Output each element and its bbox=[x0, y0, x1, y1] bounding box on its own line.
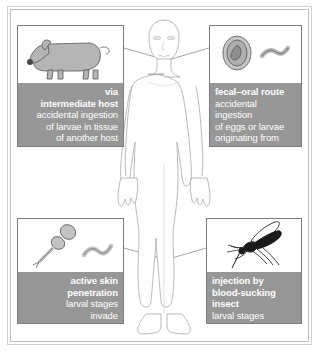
caption-title-line-1: fecal–oral route bbox=[215, 86, 296, 98]
pig-icon bbox=[18, 26, 123, 83]
mosquito-icon bbox=[207, 219, 301, 272]
caption-body-line-4: feces of infected bbox=[215, 144, 296, 148]
caption-body-line-3: through skin bbox=[23, 321, 118, 324]
diagram-canvas: via intermediate host accidental ingesti… bbox=[0, 0, 327, 362]
caption-via-intermediate-host: via intermediate host accidental ingesti… bbox=[18, 83, 123, 146]
mosquito-leg-2 bbox=[257, 249, 273, 265]
caption-body-line-2: of eggs or larvae bbox=[215, 121, 296, 133]
cercaria-illustration-panel bbox=[18, 219, 123, 272]
pig-illustration-panel bbox=[18, 26, 123, 83]
transmission-box-fecal-oral-route[interactable]: fecal–oral route accidental ingestion of… bbox=[209, 25, 302, 147]
caption-injection-by-blood-sucking-insect: injection by blood-sucking insect larval… bbox=[207, 272, 301, 323]
caption-title-line-2: penetration bbox=[23, 287, 118, 299]
caption-body-line-3: of another host bbox=[23, 132, 118, 144]
human-hand-right bbox=[190, 178, 210, 206]
human-foot-right bbox=[167, 314, 190, 334]
caption-title-line-1: active skin bbox=[23, 275, 118, 287]
pig-leg-front bbox=[47, 70, 53, 79]
caption-title-line-1: injection by bbox=[212, 275, 296, 287]
transmission-box-via-intermediate-host[interactable]: via intermediate host accidental ingesti… bbox=[17, 25, 124, 147]
transmission-box-active-skin-penetration[interactable]: active skin penetration larval stages in… bbox=[17, 218, 124, 324]
caption-title-line-1: via bbox=[23, 86, 118, 98]
caption-body-line-1: larval stages bbox=[23, 298, 118, 310]
cercaria-tail-outline bbox=[39, 248, 53, 262]
caption-body-line-2: of larvae in tissue bbox=[23, 121, 118, 133]
mosquito-antenna-b bbox=[227, 250, 238, 252]
human-eye-left bbox=[153, 36, 161, 40]
caption-fecal-oral-route: fecal–oral route accidental ingestion of… bbox=[210, 83, 301, 146]
cercaria-and-larva-icon bbox=[18, 219, 123, 272]
caption-body-line-2: invade bbox=[23, 310, 118, 322]
mosquito-leg-1 bbox=[251, 250, 267, 264]
pig-leg-hind bbox=[83, 70, 89, 79]
pig-tail bbox=[100, 47, 109, 54]
caption-body-line-3: originating from bbox=[215, 132, 296, 144]
pig-snout bbox=[27, 59, 33, 65]
egg-and-larva-illustration-panel bbox=[210, 26, 301, 83]
human-foot-left bbox=[138, 314, 161, 334]
mosquito-proboscis bbox=[232, 252, 240, 268]
pig-leg-front2 bbox=[58, 70, 63, 79]
caption-active-skin-penetration: active skin penetration larval stages in… bbox=[18, 272, 123, 323]
caption-title-line-2: intermediate host bbox=[23, 98, 118, 110]
human-arm-right bbox=[196, 86, 203, 176]
caption-body-line-1: accidental ingestion bbox=[23, 109, 118, 121]
caption-title-line-2: blood-sucking insect bbox=[212, 287, 296, 310]
human-eye-right bbox=[167, 36, 175, 40]
transmission-box-injection-by-blood-sucking-insect[interactable]: injection by blood-sucking insect larval… bbox=[206, 218, 302, 324]
human-head bbox=[149, 20, 179, 61]
caption-body-line-1: accidental ingestion bbox=[215, 98, 296, 121]
caption-body-line-1: larval stages develop bbox=[212, 310, 296, 325]
human-hand-left bbox=[118, 178, 138, 206]
mosquito-illustration-panel bbox=[207, 219, 301, 272]
pig-leg-hind2 bbox=[93, 70, 98, 79]
human-body-figure bbox=[108, 14, 220, 344]
egg-and-larva-icon bbox=[210, 26, 301, 83]
